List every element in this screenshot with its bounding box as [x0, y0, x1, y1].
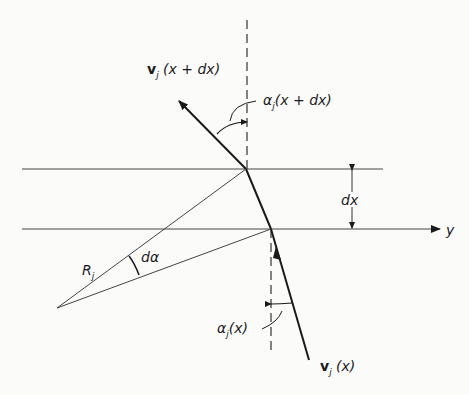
label-dalpha: dα [141, 249, 160, 265]
label-v-bottom: vj (x) [320, 358, 355, 377]
label-y-axis: y [445, 222, 455, 238]
label-alpha-bottom: αj(x) [217, 320, 248, 339]
refraction-diagram: vj (x + dx) αj(x + dx) dx y Rj dα αj(x) … [0, 0, 469, 395]
label-alpha-top: αj(x + dx) [263, 92, 332, 111]
radius-line-top [57, 169, 246, 308]
alpha-top-arc [217, 122, 247, 134]
dalpha-arc [129, 256, 139, 275]
label-dx: dx [341, 192, 359, 208]
label-R: Rj [82, 262, 95, 281]
ray-middle [246, 169, 271, 229]
alpha-top-leader [230, 101, 256, 121]
alpha-bottom-leader [262, 311, 282, 329]
label-v-top: vj (x + dx) [147, 61, 220, 80]
ray-top [179, 101, 246, 169]
alpha-bottom-arc [271, 303, 292, 304]
